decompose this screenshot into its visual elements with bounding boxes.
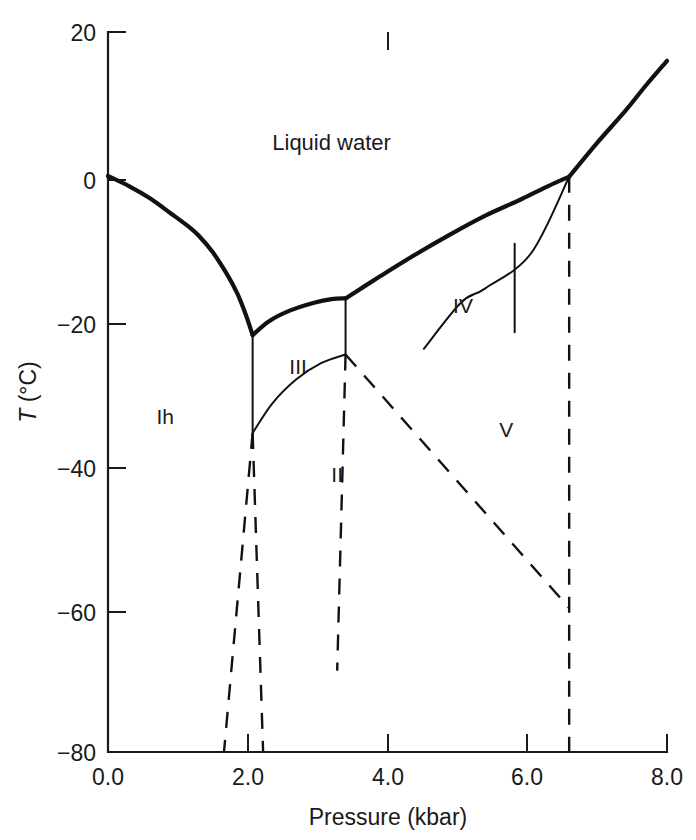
label-ii: II (331, 463, 343, 486)
x-tick-label-6: 6.0 (511, 764, 543, 790)
x-tick-label-2: 2.0 (232, 764, 264, 790)
y-axis-title-unit: (°C) (15, 361, 41, 402)
phase-region-labels: Liquid waterIhIIIIIIVV (157, 130, 514, 486)
curve-iv-metastable-boundary (424, 177, 569, 349)
y-axis-title: T (°C) (15, 361, 41, 423)
curve-v-liquid-melting-curve (346, 177, 570, 299)
curve-vi-liquid-melting-curve (569, 61, 667, 177)
y-tick-labels: 20 0 −20 −40 −60 −80 (57, 20, 96, 766)
label-ih: Ih (157, 405, 175, 428)
curve-ih-liquid-melting-curve (108, 176, 253, 335)
label-iv: IV (453, 294, 473, 317)
x-tick-label-4: 4.0 (372, 764, 404, 790)
y-tick-label-minus40: −40 (57, 456, 96, 482)
curve-ii-iii-extrapolation-dashed (337, 355, 345, 671)
label-v: V (499, 418, 513, 441)
label-liquid-water: Liquid water (272, 130, 391, 155)
y-tick-label-minus80: −80 (57, 740, 96, 766)
water-phase-diagram-chart: 20 0 −20 −40 −60 −80 0.0 2.0 4.0 6.0 8.0… (0, 0, 696, 840)
y-tick-label-minus20: −20 (57, 312, 96, 338)
curve-ii-v-extrapolation-dashed (346, 355, 570, 608)
phase-diagram-figure: 20 0 −20 −40 −60 −80 0.0 2.0 4.0 6.0 8.0… (0, 0, 696, 840)
y-tick-label-minus60: −60 (57, 600, 96, 626)
phase-boundary-curves (108, 61, 667, 752)
y-tick-label-20: 20 (70, 20, 96, 46)
curve-iii-liquid-melting-curve (253, 298, 346, 335)
x-tick-labels: 0.0 2.0 4.0 6.0 8.0 (92, 764, 683, 790)
x-axis-title: Pressure (kbar) (309, 804, 467, 830)
y-axis-title-group: T (°C) (15, 361, 41, 423)
curve-ih-ii-extrapolation-left-dashed (224, 433, 253, 752)
label-iii: III (289, 355, 307, 378)
x-tick-label-8: 8.0 (651, 764, 683, 790)
curve-ih-ii-extrapolation-right-dashed (253, 433, 263, 752)
x-tick-label-0: 0.0 (92, 764, 124, 790)
y-tick-label-0: 0 (83, 168, 96, 194)
y-axis-ticks (108, 32, 126, 752)
